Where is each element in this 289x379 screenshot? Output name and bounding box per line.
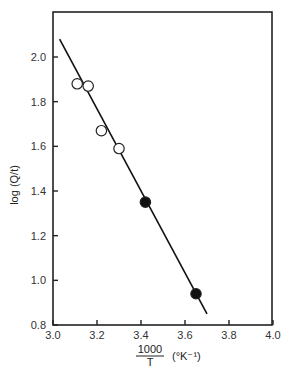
x-tick-label: 3.8 (221, 329, 236, 341)
x-tick-label: 4.0 (265, 329, 280, 341)
y-tick-label: 0.8 (31, 319, 46, 331)
filled-data-point (140, 197, 150, 207)
plot-frame (53, 12, 272, 325)
x-tick-label: 3.2 (89, 329, 104, 341)
y-tick-label: 1.6 (31, 140, 46, 152)
x-axis-label-unit: (°K⁻¹) (172, 350, 201, 362)
y-tick-label: 1.0 (31, 274, 46, 286)
y-axis-ticks: 0.81.01.21.41.61.82.0 (31, 51, 58, 331)
x-tick-label: 3.6 (177, 329, 192, 341)
y-tick-label: 1.2 (31, 230, 46, 242)
y-tick-label: 1.8 (31, 96, 46, 108)
x-tick-label: 3.0 (45, 329, 60, 341)
open-data-point (83, 81, 93, 91)
y-axis-label: log (Q/t) (8, 165, 20, 205)
chart: 0.81.01.21.41.61.82.0 3.03.23.43.63.84.0… (0, 0, 289, 379)
x-axis-ticks: 3.03.23.43.63.84.0 (45, 320, 280, 341)
open-data-point (114, 143, 124, 153)
filled-data-point (191, 289, 201, 299)
x-axis-label-numerator: 1000 (138, 343, 162, 355)
open-data-point (96, 126, 106, 136)
y-tick-label: 2.0 (31, 51, 46, 63)
y-tick-label: 1.4 (31, 185, 46, 197)
open-data-point (72, 79, 82, 89)
x-tick-label: 3.4 (133, 329, 148, 341)
x-axis-label-denominator: T (147, 356, 154, 368)
